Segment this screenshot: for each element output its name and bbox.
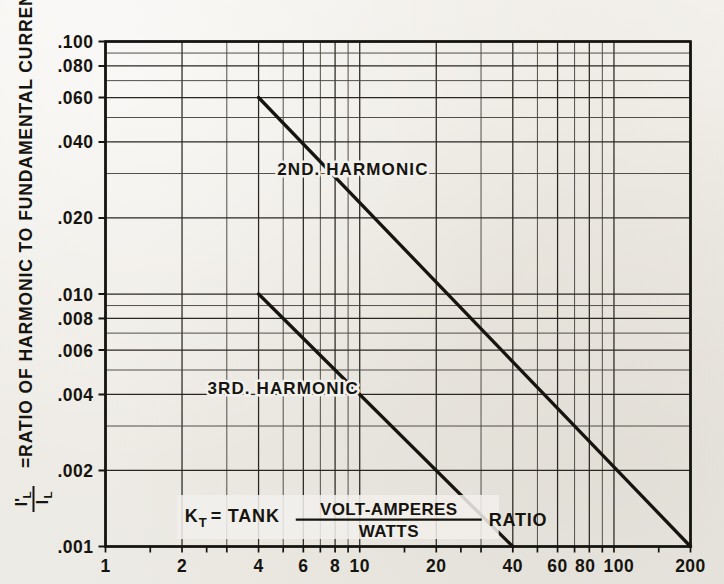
kt-fraction-numerator: VOLT-AMPERES <box>320 500 458 519</box>
chart-canvas: .001.002.004.006.008.010.020.040.060.080… <box>0 0 724 584</box>
kt-subscript: T <box>199 515 207 530</box>
y-tick-label: .020 <box>57 208 93 228</box>
tick-group <box>99 42 691 553</box>
y-axis-fraction-denominator: I <box>34 500 51 504</box>
kt-symbol: K <box>185 506 199 526</box>
y-tick-label: .008 <box>57 309 93 329</box>
kt-fraction-denominator: WATTS <box>359 522 419 541</box>
y-tick-label: .002 <box>57 461 93 481</box>
x-tick-labels: 124681020406080100200 <box>100 556 705 576</box>
x-tick-label: 80 <box>575 556 595 576</box>
y-tick-label: .001 <box>57 537 93 557</box>
y-axis-fraction-numerator-sub: L <box>21 491 33 498</box>
log-log-chart: .001.002.004.006.008.010.020.040.060.080… <box>0 0 724 584</box>
y-tick-label: .080 <box>57 56 93 76</box>
series-annotations: 2ND. HARMONIC2ND. HARMONIC3RD. HARMONIC3… <box>208 160 429 398</box>
y-axis-fraction: I'LIL <box>13 486 54 512</box>
x-tick-label: 20 <box>426 556 446 576</box>
y-axis-fraction-denominator-sub: L <box>42 491 54 498</box>
grid-group <box>106 42 691 547</box>
kt-ratio-label: RATIO <box>489 510 548 530</box>
x-tick-label: 1 <box>100 556 110 576</box>
kt-equals-tank: = TANK <box>211 506 280 526</box>
y-tick-label: .010 <box>57 285 93 305</box>
x-tick-label: 6 <box>298 556 308 576</box>
series-annotation: 2ND. HARMONIC <box>277 160 428 179</box>
x-tick-label: 100 <box>604 556 635 576</box>
y-tick-label: .060 <box>57 88 93 108</box>
x-tick-label: 4 <box>253 556 263 576</box>
y-tick-labels: .001.002.004.006.008.010.020.040.060.080… <box>57 32 93 557</box>
x-tick-label: 40 <box>503 556 523 576</box>
y-tick-label: .100 <box>57 32 93 52</box>
x-tick-label: 200 <box>675 556 706 576</box>
y-axis-title: =RATIO OF HARMONIC TO FUNDAMENTAL CURREN… <box>13 0 54 512</box>
y-tick-label: .004 <box>57 385 93 405</box>
series-annotation: 3RD. HARMONIC <box>208 379 359 398</box>
x-tick-label: 8 <box>330 556 340 576</box>
x-tick-label: 60 <box>547 556 567 576</box>
x-tick-label: 2 <box>177 556 187 576</box>
x-tick-label: 10 <box>349 556 369 576</box>
kt-definition-annotation: KT= TANKVOLT-AMPERESWATTSRATIO <box>177 495 548 541</box>
y-tick-label: .006 <box>57 341 93 361</box>
y-tick-label: .040 <box>57 132 93 152</box>
y-axis-title-text: =RATIO OF HARMONIC TO FUNDAMENTAL CURREN… <box>16 0 36 468</box>
